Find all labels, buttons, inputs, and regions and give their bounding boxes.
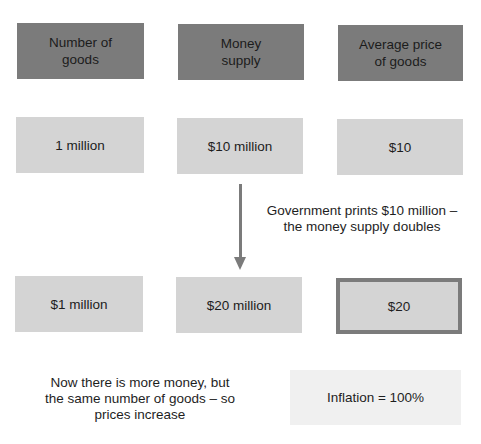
header-number-of-goods: Number of goods <box>17 23 144 79</box>
after-average-price: $20 <box>336 278 462 334</box>
after-number-of-goods: $1 million <box>15 276 143 332</box>
arrow-head <box>234 257 246 270</box>
before-money-supply-value: $10 million <box>208 138 273 155</box>
header-average-price-label: Average price of goods <box>359 36 442 70</box>
after-money-supply-value: $20 million <box>207 297 272 314</box>
after-money-supply: $20 million <box>176 277 302 333</box>
after-average-price-value: $20 <box>388 298 411 315</box>
before-number-of-goods: 1 million <box>16 117 144 173</box>
header-average-price: Average price of goods <box>338 25 463 81</box>
arrow-shaft <box>239 184 242 258</box>
header-number-of-goods-label: Number of goods <box>49 34 112 68</box>
header-money-supply: Money supply <box>178 24 304 80</box>
money-printing-annotation: Government prints $10 million – the mone… <box>262 203 462 235</box>
inflation-result-label: Inflation = 100% <box>327 389 424 406</box>
before-average-price: $10 <box>337 119 463 175</box>
header-money-supply-label: Money supply <box>221 35 262 69</box>
before-number-of-goods-value: 1 million <box>55 137 105 154</box>
conclusion-text: Now there is more money, but the same nu… <box>35 375 245 423</box>
before-average-price-value: $10 <box>389 139 412 156</box>
after-number-of-goods-value: $1 million <box>50 296 107 313</box>
inflation-result: Inflation = 100% <box>290 370 461 425</box>
before-money-supply: $10 million <box>177 118 303 174</box>
